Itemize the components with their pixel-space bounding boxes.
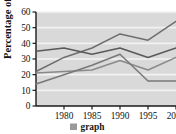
chart-legend: graph [70, 122, 105, 132]
x-tick-label: 2000 [167, 111, 176, 121]
legend-label: graph [81, 122, 106, 132]
y-tick-label: 10 [21, 86, 31, 96]
y-tick-label: 60 [21, 7, 31, 17]
x-tick-label: 1985 [83, 111, 102, 121]
x-tick-label: 1990 [111, 111, 130, 121]
y-tick-labels: 0102030405060 [21, 7, 31, 111]
x-tick-label: 1980 [55, 111, 74, 121]
y-tick-label: 20 [21, 70, 31, 80]
x-tick-labels: 19801985199019952000 [55, 111, 176, 121]
chart-figure: 0102030405060 19801985199019952000 Perce… [0, 0, 176, 134]
y-tick-label: 30 [21, 54, 31, 64]
y-axis-label: Percentage of sales [2, 0, 13, 59]
y-tick-label: 50 [21, 23, 31, 33]
y-tick-label: 0 [26, 101, 31, 111]
y-tick-label: 40 [21, 39, 31, 49]
legend-swatch [70, 124, 77, 131]
line-chart: 0102030405060 19801985199019952000 Perce… [0, 0, 176, 134]
x-tick-label: 1995 [139, 111, 158, 121]
